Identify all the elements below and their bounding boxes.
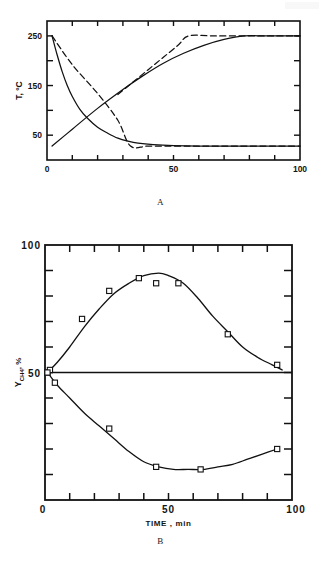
x-tick-label-a: 0	[45, 164, 50, 174]
y-axis-title-text-b: YCH4, %	[13, 358, 25, 388]
chart-panel-a: 05010050150250T, °C	[14, 21, 307, 174]
data-marker-upper-branch-markers	[275, 362, 280, 367]
data-marker-lower-branch-markers	[45, 370, 50, 375]
series-lower-branch-fit	[47, 373, 277, 470]
x-tick-label-a: 100	[293, 164, 307, 174]
data-marker-upper-branch-markers	[176, 281, 181, 286]
y-tick-label-a: 50	[33, 130, 43, 140]
series-solid-rise	[52, 36, 300, 146]
y-tick-label-b: 100	[21, 240, 41, 251]
y-tick-label-a: 250	[28, 31, 42, 41]
data-marker-lower-branch-markers	[52, 380, 57, 385]
y-axis-title-a: T, °C	[14, 81, 24, 100]
y-axis-title-b: YCH4, %	[13, 358, 25, 388]
data-marker-upper-branch-markers	[107, 288, 112, 293]
scan-artifact	[285, 2, 319, 9]
data-marker-lower-branch-markers	[154, 464, 159, 469]
x-tick-label-b: 100	[286, 504, 306, 515]
series-solid-decay	[52, 36, 300, 146]
figure-svg: 05010050150250T, °C 05010050100TIME , mi…	[0, 0, 321, 562]
y-tick-label-b: 50	[28, 368, 41, 379]
x-axis-title-b: TIME , min	[146, 519, 192, 528]
series-dashed-decay	[52, 36, 300, 148]
data-marker-lower-branch-markers	[275, 446, 280, 451]
data-marker-upper-branch-markers	[225, 332, 230, 337]
x-tick-label-a: 50	[169, 164, 179, 174]
data-marker-upper-branch-markers	[79, 316, 84, 321]
series-upper-branch-fit	[47, 273, 282, 372]
data-marker-upper-branch-markers	[136, 276, 141, 281]
x-tick-label-b: 50	[162, 504, 175, 515]
y-tick-label-a: 150	[28, 81, 42, 91]
data-marker-upper-branch-markers	[154, 281, 159, 286]
panel-b-label: B	[0, 536, 321, 546]
plot-frame-a	[47, 21, 300, 160]
data-marker-lower-branch-markers	[198, 467, 203, 472]
x-tick-label-b: 0	[40, 504, 47, 515]
panel-a-label: A	[0, 197, 321, 207]
figure-container: 05010050150250T, °C 05010050100TIME , mi…	[0, 0, 321, 562]
data-marker-lower-branch-markers	[107, 426, 112, 431]
chart-panel-b: 05010050100TIME , minYCH4, %	[13, 240, 306, 528]
